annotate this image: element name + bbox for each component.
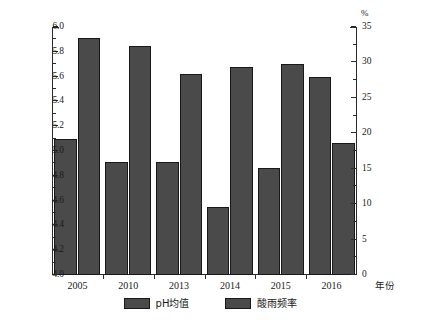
right-axis-label-10: 10	[362, 199, 372, 209]
x-axis-label-2015: 2015	[256, 281, 306, 291]
right-axis-label-20: 20	[362, 128, 372, 138]
right-tick-20	[351, 132, 356, 133]
legend-label-acid-rain-frequency: 酸雨频率	[257, 298, 297, 309]
legend-label-ph: pH均值	[156, 298, 190, 309]
right-minor-tick	[353, 185, 356, 186]
x-axis-label-2005: 2005	[52, 281, 102, 291]
figure-caption	[0, 325, 421, 333]
bar-acid-rain-frequency-2015	[281, 64, 304, 275]
right-minor-tick	[353, 256, 356, 257]
bar-acid-rain-frequency-2016	[332, 143, 355, 276]
right-axis-label-30: 30	[362, 57, 372, 67]
right-axis-label-0: 0	[362, 270, 367, 280]
right-axis-unit: %	[361, 9, 369, 18]
right-tick-10	[351, 203, 356, 204]
x-tick	[103, 275, 104, 279]
left-minor-tick	[53, 113, 56, 114]
x-axis-label-2014: 2014	[205, 281, 255, 291]
bar-ph-2016	[309, 77, 332, 275]
right-axis-top-cap	[350, 27, 356, 28]
right-axis-label-15: 15	[362, 164, 372, 174]
right-minor-tick	[353, 115, 356, 116]
right-tick-15	[351, 168, 356, 169]
bar-ph-2015	[258, 168, 281, 275]
bar-acid-rain-frequency-2013	[180, 74, 203, 275]
left-axis-label-5.2: 5.2	[52, 121, 64, 131]
legend-item-ph: pH均值	[124, 298, 190, 309]
right-tick-0	[351, 274, 356, 275]
bar-ph-2010	[105, 162, 128, 275]
left-minor-tick	[53, 237, 56, 238]
left-minor-tick	[53, 212, 56, 213]
right-tick-30	[351, 61, 356, 62]
right-minor-tick	[353, 44, 356, 45]
left-minor-tick	[53, 162, 56, 163]
chart-legend: pH均值 酸雨频率	[0, 298, 421, 309]
plot-area	[52, 27, 357, 275]
bar-ph-2013	[156, 162, 179, 275]
left-axis-label-4.4: 4.4	[52, 220, 64, 230]
x-axis-label-2013: 2013	[154, 281, 204, 291]
x-tick	[255, 275, 256, 279]
x-axis-label-2010: 2010	[103, 281, 153, 291]
right-axis-label-25: 25	[362, 93, 372, 103]
left-axis-label-5.0: 5.0	[52, 146, 64, 156]
legend-item-acid-rain-frequency: 酸雨频率	[225, 298, 297, 309]
left-axis-label-5.6: 5.6	[52, 72, 64, 82]
legend-swatch-ph	[124, 298, 150, 309]
x-axis-title: 年份	[375, 281, 395, 291]
right-minor-tick	[353, 221, 356, 222]
x-tick	[205, 275, 206, 279]
right-tick-25	[351, 97, 356, 98]
left-axis-label-5.8: 5.8	[52, 47, 64, 57]
right-minor-tick	[353, 150, 356, 151]
right-tick-5	[351, 239, 356, 240]
x-tick	[306, 275, 307, 279]
left-minor-tick	[53, 187, 56, 188]
bar-acid-rain-frequency-2014	[230, 67, 253, 275]
left-axis-label-6.0: 6.0	[52, 22, 64, 32]
right-axis-line	[356, 27, 357, 275]
right-axis-label-35: 35	[362, 22, 372, 32]
x-axis-label-2016: 2016	[307, 281, 357, 291]
left-axis-label-4.0: 4.0	[52, 270, 64, 280]
legend-swatch-acid-rain-frequency	[225, 298, 251, 309]
left-minor-tick	[53, 38, 56, 39]
left-minor-tick	[53, 138, 56, 139]
left-axis-label-4.2: 4.2	[52, 245, 64, 255]
bar-acid-rain-frequency-2005	[78, 38, 101, 275]
right-tick-35	[351, 26, 356, 27]
left-axis-label-5.4: 5.4	[52, 96, 64, 106]
right-axis-label-5: 5	[362, 235, 367, 245]
right-minor-tick	[353, 79, 356, 80]
left-axis-label-4.8: 4.8	[52, 171, 64, 181]
left-minor-tick	[53, 262, 56, 263]
bar-acid-rain-frequency-2010	[129, 46, 152, 275]
left-axis-label-4.6: 4.6	[52, 196, 64, 206]
x-tick	[154, 275, 155, 279]
left-minor-tick	[53, 63, 56, 64]
left-minor-tick	[53, 88, 56, 89]
figure-container: % 6.05.85.65.45.25.04.84.64.44.24.0 3530…	[0, 0, 421, 333]
bar-ph-2014	[207, 207, 230, 275]
